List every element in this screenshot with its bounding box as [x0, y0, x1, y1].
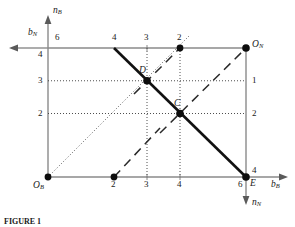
tick-label-left-4: 4	[38, 50, 43, 59]
point-label-D: D	[139, 66, 146, 76]
tick-label-top-2: 2	[177, 33, 182, 42]
tick-label-top-left-6: 6	[55, 33, 60, 42]
figure-caption: FIGURE 1	[4, 218, 41, 226]
diagonal-ray	[48, 35, 190, 177]
axis-label-bN: bN	[28, 28, 37, 38]
tick-label-right-1: 1	[252, 76, 257, 85]
tick-label-left-2: 2	[38, 109, 43, 118]
point-label-E: E	[250, 179, 256, 189]
axis-label-nN: nN	[252, 198, 261, 208]
tick-label-bottom-3: 3	[144, 180, 149, 189]
axis-nB-arrow-icon	[45, 15, 52, 24]
axis-label-nB: nB	[53, 6, 62, 16]
dashed-through-C	[160, 48, 246, 133]
point-OB-dot	[45, 174, 52, 181]
origin-label-OB: OB	[33, 181, 44, 191]
point-ON-dot	[242, 44, 250, 52]
axis-label-bB: bB	[271, 180, 280, 190]
point-E-dot	[242, 173, 250, 181]
tick-label-bottom-6: 6	[238, 180, 243, 189]
point-C-dot	[176, 110, 184, 118]
point-D-dot	[143, 77, 151, 85]
dashed-lower	[114, 128, 160, 177]
origin-label-ON: ON	[252, 40, 263, 50]
tick-label-left-3: 3	[38, 76, 43, 85]
axis-nN-arrow-icon	[243, 196, 250, 205]
figure-container: bN nB bB nN OB ON D C E 6 4 3 2 4 3 2 1 …	[0, 0, 295, 227]
tick-label-bottom-2: 2	[111, 180, 116, 189]
axis-bB-arrow-icon	[279, 174, 288, 181]
axis-bN-arrow-icon	[9, 45, 18, 52]
tick-label-top-4: 4	[112, 33, 117, 42]
tick-label-top-3: 3	[144, 33, 149, 42]
tick-label-right-2: 2	[252, 109, 257, 118]
tick-label-bottom-4: 4	[177, 180, 182, 189]
point-label-C: C	[174, 99, 180, 109]
point-top-2-dot	[177, 45, 184, 52]
tick-label-right-4: 4	[252, 166, 257, 175]
